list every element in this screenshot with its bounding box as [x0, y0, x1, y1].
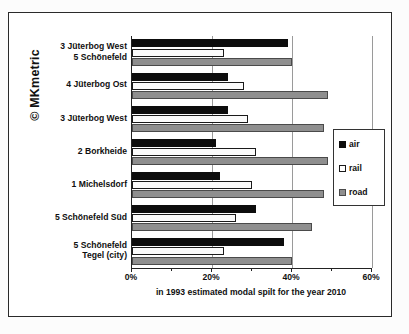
rail-swatch — [339, 165, 346, 172]
y-label-line: Tegel (city) — [1, 250, 127, 261]
legend-label-rail: rail — [349, 163, 362, 173]
x-minor-tick-30 — [251, 268, 252, 271]
y-label-line: 3 Jüterbog West — [1, 113, 127, 124]
gridline-40 — [292, 36, 293, 268]
x-tick-0 — [131, 268, 132, 272]
bar-road-1 — [132, 91, 328, 99]
bar-rail-3 — [132, 148, 256, 156]
y-axis-label-1: 4 Jüterbog Ost — [1, 79, 127, 90]
bar-air-6 — [132, 238, 284, 246]
y-axis-labels: 3 Jüterbog West5 Schönefeld4 Jüterbog Os… — [0, 36, 127, 268]
y-axis-label-4: 1 Michelsdorf — [1, 179, 127, 190]
chart-legend: airrailroad — [333, 129, 385, 206]
x-tick-60 — [371, 268, 372, 272]
x-tick-40 — [291, 268, 292, 272]
air-swatch — [339, 141, 346, 148]
y-label-line: 5 Schönefeld — [1, 52, 127, 63]
bar-rail-4 — [132, 181, 252, 189]
y-axis-label-5: 5 Schönefeld Süd — [1, 212, 127, 223]
bar-road-2 — [132, 124, 324, 132]
legend-item-air[interactable]: air — [339, 139, 360, 149]
y-label-line: 5 Schönefeld — [1, 240, 127, 251]
bar-rail-1 — [132, 82, 244, 90]
bar-road-0 — [132, 58, 292, 66]
bar-road-4 — [132, 190, 324, 198]
y-axis-label-3: 2 Borkheide — [1, 146, 127, 157]
bar-air-1 — [132, 73, 228, 81]
bar-road-5 — [132, 223, 312, 231]
y-label-line: 4 Jüterbog Ost — [1, 79, 127, 90]
x-axis-title: in 1993 estimated modal spilt for the ye… — [131, 287, 371, 297]
y-label-line: 1 Michelsdorf — [1, 179, 127, 190]
bar-rail-6 — [132, 247, 224, 255]
x-axis-tick-labels: 0%20%40%60% — [0, 272, 409, 286]
bar-air-3 — [132, 139, 216, 147]
bar-air-2 — [132, 106, 228, 114]
x-tick-label-0%: 0% — [125, 272, 137, 282]
bar-rail-2 — [132, 115, 248, 123]
y-axis-label-6: 5 SchönefeldTegel (city) — [1, 240, 127, 261]
legend-label-road: road — [349, 187, 368, 197]
legend-item-road[interactable]: road — [339, 187, 368, 197]
y-label-line: 5 Schönefeld Süd — [1, 212, 127, 223]
x-tick-label-40%: 40% — [282, 272, 299, 282]
bar-rail-0 — [132, 49, 224, 57]
bar-road-3 — [132, 157, 328, 165]
y-label-line: 2 Borkheide — [1, 146, 127, 157]
y-label-line: 3 Jüterbog West — [1, 41, 127, 52]
x-minor-tick-10 — [171, 268, 172, 271]
x-minor-tick-50 — [331, 268, 332, 271]
figure: © MKmetric 3 Jüterbog West5 Schönefeld4 … — [0, 0, 409, 334]
road-swatch — [339, 189, 346, 196]
x-tick-label-20%: 20% — [202, 272, 219, 282]
y-axis-label-2: 3 Jüterbog West — [1, 113, 127, 124]
bar-air-0 — [132, 39, 288, 47]
x-tick-20 — [211, 268, 212, 272]
bar-air-5 — [132, 205, 256, 213]
x-tick-label-60%: 60% — [362, 272, 379, 282]
bar-road-6 — [132, 257, 292, 265]
legend-item-rail[interactable]: rail — [339, 163, 362, 173]
bar-rail-5 — [132, 214, 236, 222]
y-axis-label-0: 3 Jüterbog West5 Schönefeld — [1, 41, 127, 62]
legend-label-air: air — [349, 139, 360, 149]
bar-air-4 — [132, 172, 220, 180]
